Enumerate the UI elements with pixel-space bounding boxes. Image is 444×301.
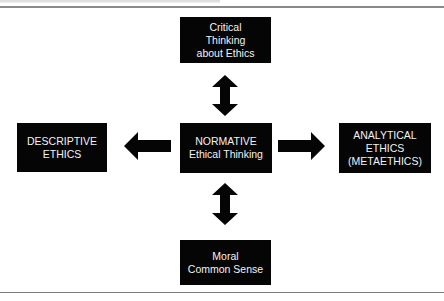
bottom-rule: [0, 292, 444, 293]
node-label-line: about Ethics: [197, 47, 255, 60]
double-arrow-vertical-icon: [212, 183, 238, 225]
node-label-line: ANALYTICAL: [353, 129, 416, 142]
node-moral-common-sense: Moral Common Sense: [180, 240, 271, 285]
double-arrow-vertical-icon: [212, 75, 238, 116]
node-descriptive-ethics: DESCRIPTIVE ETHICS: [17, 123, 107, 172]
arrow-right-icon: [278, 132, 325, 160]
cutoff-title-fragment: [0, 0, 220, 3]
node-label-line: Thinking: [206, 34, 246, 47]
node-label-line: ETHICS: [43, 148, 82, 161]
top-rule: [0, 6, 444, 8]
node-label-line: Critical: [209, 21, 241, 34]
node-normative-ethical-thinking: NORMATIVE Ethical Thinking: [180, 123, 272, 173]
node-label-line: NORMATIVE: [195, 135, 257, 148]
node-label-line: Ethical Thinking: [189, 148, 263, 161]
node-label-line: Common Sense: [188, 263, 263, 276]
node-label-line: Moral: [212, 250, 238, 263]
arrow-left-icon: [124, 132, 171, 160]
node-label-line: ETHICS: [366, 142, 405, 155]
node-critical-thinking: Critical Thinking about Ethics: [180, 17, 271, 63]
node-analytical-ethics: ANALYTICAL ETHICS (METAETHICS): [339, 123, 431, 173]
node-label-line: DESCRIPTIVE: [27, 135, 97, 148]
node-label-line: (METAETHICS): [348, 155, 422, 168]
